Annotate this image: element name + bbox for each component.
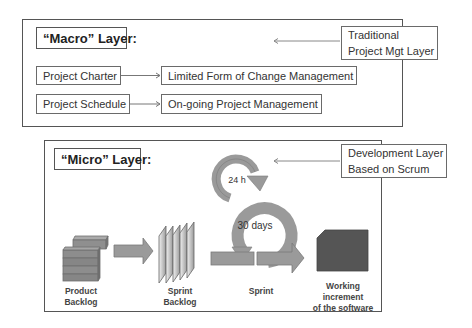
diagram-graphics [0, 0, 472, 328]
sprint-backlog-label: Sprint Backlog [152, 286, 208, 308]
product-backlog-icon [63, 236, 108, 281]
sprint-label: Sprint [246, 286, 276, 297]
flow-arrow-2 [257, 243, 304, 273]
working-increment-label-line1: Working increment [305, 281, 381, 303]
sprint-base-block [211, 252, 254, 265]
working-increment-icon [317, 230, 368, 271]
macro-note-pointer-arrow [274, 39, 340, 44]
sprint-cycle-label: 30 days [237, 220, 273, 231]
flow-arrow-1 [114, 238, 153, 264]
product-backlog-label: Product Backlog [48, 286, 114, 308]
daily-cycle-label: 24 h [224, 175, 250, 186]
micro-note-pointer-arrow [274, 159, 340, 164]
connector-arrow-schedule [130, 102, 160, 107]
working-increment-label: Working increment of the software [305, 281, 381, 314]
sprint-backlog-icon [159, 222, 194, 283]
working-increment-label-line2: of the software [305, 303, 381, 314]
connector-arrow-charter [121, 73, 160, 78]
